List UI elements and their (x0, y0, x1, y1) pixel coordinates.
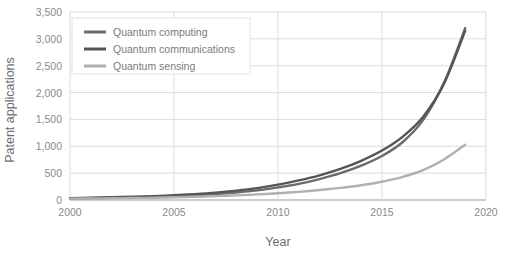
y-tick-label: 3,500 (36, 6, 62, 18)
y-tick-label: 0 (56, 194, 62, 206)
x-tick-label: 2010 (266, 206, 290, 218)
x-tick-label: 2020 (474, 206, 498, 218)
x-tick-label: 2005 (162, 206, 186, 218)
y-axis-title: Patent applications (3, 57, 17, 163)
chart-container: 05001,0001,5002,0002,5003,0003,500 20002… (0, 0, 508, 256)
legend-label: Quantum computing (113, 26, 208, 38)
chart-legend: Quantum computingQuantum communicationsQ… (72, 18, 250, 74)
line-chart: 05001,0001,5002,0002,5003,0003,500 20002… (0, 0, 508, 256)
y-tick-label: 2,000 (36, 87, 62, 99)
legend-label: Quantum communications (113, 43, 235, 55)
y-tick-label: 1,000 (36, 140, 62, 152)
x-tick-label: 2000 (58, 206, 82, 218)
y-tick-label: 2,500 (36, 60, 62, 72)
y-tick-label: 3,000 (36, 33, 62, 45)
y-tick-label: 1,500 (36, 113, 62, 125)
y-tick-label: 500 (44, 167, 62, 179)
legend-label: Quantum sensing (113, 60, 195, 72)
x-tick-label: 2015 (370, 206, 394, 218)
x-axis-title: Year (265, 235, 290, 249)
